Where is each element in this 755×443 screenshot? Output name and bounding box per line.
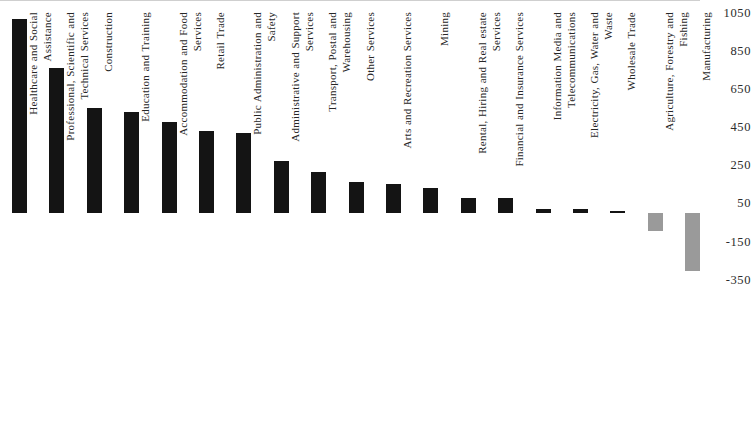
x-axis-tick-label: Accommodation and FoodServices <box>177 12 204 222</box>
y-axis-tick-label: -350 <box>726 274 751 286</box>
x-axis-tick-label: Rental, Hiring and Real estateServices <box>476 12 503 222</box>
x-axis-tick-label: Manufacturing <box>700 12 714 222</box>
bar <box>124 112 139 213</box>
y-axis-tick-label: 50 <box>737 197 751 209</box>
x-axis-tick-label: Information Media andTelecommunications <box>551 12 578 222</box>
bar <box>461 198 476 213</box>
x-axis-tick-label-line: Construction <box>102 12 116 222</box>
x-axis-tick-label-line: Healthcare and Social <box>27 12 41 222</box>
x-axis-tick-label-line: Waste <box>602 12 616 222</box>
x-axis-tick-label-line: Services <box>302 12 316 222</box>
x-axis-tick-label-line: Safety <box>265 12 279 222</box>
x-axis-tick-label-line: Assistance <box>41 12 55 222</box>
x-axis-tick-label: Other Services <box>364 12 378 222</box>
x-axis-tick-label: Construction <box>102 12 116 222</box>
y-axis-tick-label: 250 <box>730 159 751 171</box>
x-axis-tick-label: Healthcare and SocialAssistance <box>27 12 54 222</box>
y-axis-tick-label: 650 <box>730 83 751 95</box>
x-axis-tick-label: Retail Trade <box>214 12 228 222</box>
x-axis-tick-label-line: Arts and Recreation Services <box>401 12 415 222</box>
x-axis-tick-label-line: Agriculture, Forestry and <box>663 12 677 222</box>
bar-chart: 105085065045025050-150-350 Healthcare an… <box>0 0 755 443</box>
x-axis-tick-label-line: Mining <box>438 12 452 222</box>
bar <box>536 209 551 213</box>
y-axis-tick-label: 850 <box>730 45 751 57</box>
x-axis-tick-label: Mining <box>438 12 452 222</box>
x-axis-tick-label-line: Other Services <box>364 12 378 222</box>
y-axis-tick-label: -150 <box>726 236 751 248</box>
x-axis-tick-label-line: Financial and Insurance Services <box>513 12 527 222</box>
x-axis-tick-label-line: Services <box>489 12 503 222</box>
x-axis-tick-label-line: Education and Training <box>139 12 153 222</box>
bar <box>162 122 177 213</box>
x-axis: Healthcare and SocialAssistanceProfessio… <box>0 216 700 443</box>
x-axis-tick-label: Electricity, Gas, Water andWaste <box>588 12 615 222</box>
x-axis-tick-label: Public Administration andSafety <box>251 12 278 222</box>
x-axis-tick-label: Professional, Scientific andTechnical Se… <box>64 12 91 222</box>
x-axis-tick-label-line: Public Administration and <box>251 12 265 222</box>
x-axis-tick-label: Arts and Recreation Services <box>401 12 415 222</box>
y-axis-tick-label: 450 <box>730 121 751 133</box>
x-axis-tick-label-line: Information Media and <box>551 12 565 222</box>
bar <box>236 133 251 213</box>
x-axis-tick-label: Wholesale Trade <box>625 12 639 222</box>
x-axis-tick-label-line: Wholesale Trade <box>625 12 639 222</box>
x-axis-tick-label: Administrative and SupportServices <box>289 12 316 222</box>
x-axis-tick-label-line: Telecommunications <box>564 12 578 222</box>
x-axis-tick-label-line: Fishing <box>676 12 690 222</box>
y-axis-tick-label: 1050 <box>724 7 751 19</box>
bar <box>12 19 27 213</box>
x-axis-tick-label: Transport, Postal andWarehousing <box>326 12 353 222</box>
x-axis-tick-label-line: Accommodation and Food <box>177 12 191 222</box>
x-axis-tick-label-line: Manufacturing <box>700 12 714 222</box>
x-axis-tick-label: Agriculture, Forestry andFishing <box>663 12 690 222</box>
x-axis-tick-label-line: Warehousing <box>340 12 354 222</box>
x-axis-tick-label-line: Transport, Postal and <box>326 12 340 222</box>
x-axis-tick-label: Education and Training <box>139 12 153 222</box>
bar <box>423 188 438 213</box>
x-axis-tick-label-line: Professional, Scientific and <box>64 12 78 222</box>
x-axis-tick-label-line: Administrative and Support <box>289 12 303 222</box>
x-axis-tick-label-line: Electricity, Gas, Water and <box>588 12 602 222</box>
zero-baseline <box>0 0 700 1</box>
x-axis-tick-label: Financial and Insurance Services <box>513 12 527 222</box>
x-axis-tick-label-line: Services <box>190 12 204 222</box>
x-axis-tick-label-line: Technical Services <box>78 12 92 222</box>
x-axis-tick-label-line: Retail Trade <box>214 12 228 222</box>
x-axis-tick-label-line: Rental, Hiring and Real estate <box>476 12 490 222</box>
bar <box>386 184 401 213</box>
